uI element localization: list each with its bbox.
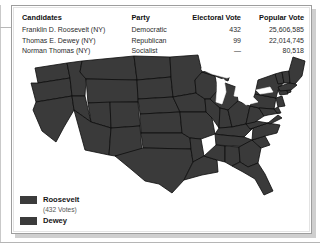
cell-party: Democratic	[131, 25, 188, 36]
legend-label-roosevelt: Roosevelt	[43, 195, 79, 204]
us-map-svg	[12, 52, 311, 210]
state-south-dakota	[137, 77, 173, 99]
state-maine	[289, 57, 305, 84]
state-nebraska	[138, 97, 180, 114]
state-kansas	[140, 112, 182, 133]
state-texas	[115, 148, 193, 193]
cell-electoral-vote: 99	[188, 36, 255, 47]
cell-electoral-vote: 432	[188, 25, 255, 36]
cell-candidate: Thomas E. Dewey (NY)	[22, 36, 131, 47]
table-header-row: Candidates Party Electoral Vote Popular …	[22, 13, 304, 25]
state-new-jersey	[276, 96, 285, 107]
election-results-table: Candidates Party Electoral Vote Popular …	[22, 13, 304, 57]
table-row: Thomas E. Dewey (NY) Republican 99 22,01…	[22, 36, 304, 47]
state-california	[33, 96, 74, 142]
cell-party: Republican	[131, 36, 188, 47]
state-north-dakota	[134, 56, 171, 80]
legend-item-roosevelt: Roosevelt	[20, 194, 140, 205]
map-states-group	[31, 55, 305, 195]
legend-swatch-dewey	[20, 217, 37, 225]
panel-drop-shadow-bottom	[15, 234, 316, 238]
state-montana	[80, 56, 137, 80]
state-colorado	[110, 102, 140, 128]
legend-sublabel-roosevelt: (432 Votes)	[43, 205, 140, 215]
cell-candidate: Franklin D. Roosevelt (NY)	[22, 25, 131, 36]
legend-item-dewey: Dewey	[20, 215, 140, 226]
legend-swatch-roosevelt	[20, 196, 37, 204]
panel-drop-shadow-right	[312, 9, 316, 238]
us-electoral-map	[12, 52, 311, 210]
column-header-party: Party	[131, 13, 188, 25]
cell-popular-vote: 22,014,745	[255, 36, 304, 47]
figure-bottom-rule	[0, 242, 320, 243]
table-row: Franklin D. Roosevelt (NY) Democratic 43…	[22, 25, 304, 36]
legend-label-dewey: Dewey	[43, 216, 67, 225]
cell-popular-vote: 25,606,585	[255, 25, 304, 36]
map-legend: Roosevelt (432 Votes) Dewey	[20, 194, 140, 226]
state-oklahoma	[141, 133, 191, 149]
column-header-popular-vote: Popular Vote	[255, 13, 304, 25]
figure-left-tick	[0, 27, 11, 28]
state-florida	[232, 162, 273, 195]
election-results-figure: Candidates Party Electoral Vote Popular …	[0, 0, 320, 248]
state-wyoming	[86, 79, 138, 103]
column-header-candidates: Candidates	[22, 13, 131, 25]
column-header-electoral-vote: Electoral Vote	[188, 13, 255, 25]
figure-left-rule	[0, 5, 1, 243]
